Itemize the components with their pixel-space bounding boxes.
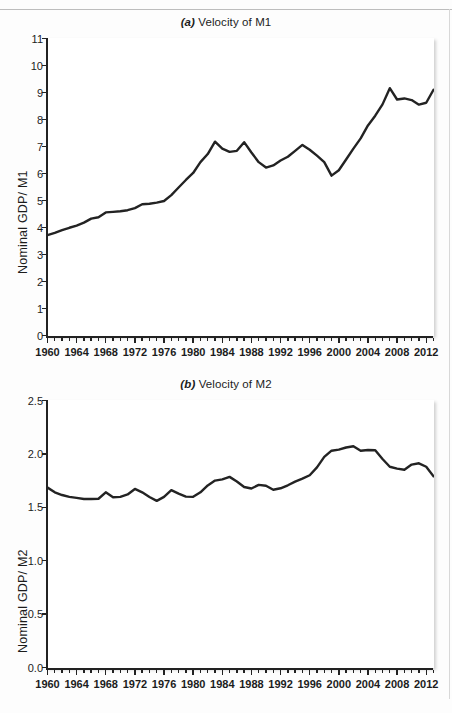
x-tick-mark: [404, 338, 405, 342]
x-tick-label: 1980: [181, 346, 205, 358]
x-tick-mark: [120, 338, 121, 342]
plot-area-m1: [47, 38, 434, 336]
y-tick-mark: [42, 119, 46, 121]
x-tick-mark: [105, 670, 106, 676]
x-tick-mark: [141, 670, 142, 674]
x-tick-mark: [47, 670, 48, 676]
x-tick-mark: [76, 670, 77, 676]
x-tick-mark: [192, 338, 193, 344]
y-tick-label: 2.5: [28, 395, 43, 407]
x-tick-mark: [243, 338, 244, 342]
x-tick-mark: [251, 338, 252, 344]
x-tick-mark: [134, 670, 135, 676]
x-tick-mark: [302, 670, 303, 674]
x-tick-mark: [163, 338, 164, 344]
x-tick-label: 1984: [210, 346, 234, 358]
x-tick-mark: [433, 338, 434, 342]
x-tick-label: 2004: [356, 678, 380, 690]
x-tick-label: 2000: [327, 678, 351, 690]
x-tick-mark: [345, 338, 346, 342]
chart-panel-velocity-m1: (a) Velocity of M1 Nominal GDP/ M1 01234…: [0, 10, 452, 358]
data-series-line: [48, 88, 434, 235]
x-tick-mark: [178, 338, 179, 342]
x-tick-mark: [120, 670, 121, 674]
x-tick-mark: [316, 670, 317, 674]
x-tick-mark: [207, 670, 208, 674]
x-tick-label: 1972: [123, 678, 147, 690]
x-tick-mark: [214, 338, 215, 342]
y-tick-mark: [42, 507, 46, 509]
x-tick-mark: [192, 670, 193, 676]
x-tick-label: 2012: [414, 678, 438, 690]
x-tick-label: 1984: [210, 678, 234, 690]
x-tick-label: 1980: [181, 678, 205, 690]
panel-tag-b: (b): [180, 378, 195, 390]
x-tick-mark: [426, 338, 427, 344]
y-tick-mark: [42, 335, 46, 337]
y-tick-mark: [42, 560, 46, 562]
x-tick-mark: [273, 670, 274, 674]
y-tick-mark: [42, 65, 46, 67]
x-tick-mark: [287, 670, 288, 674]
x-tick-mark: [134, 338, 135, 344]
x-tick-label: 2008: [385, 678, 409, 690]
y-axis-spine: [46, 38, 48, 336]
x-tick-mark: [207, 338, 208, 342]
x-tick-mark: [367, 338, 368, 344]
x-tick-label: 1972: [123, 346, 147, 358]
chart-svg-nominal-gdp-m2: [47, 400, 434, 668]
x-tick-mark: [404, 670, 405, 674]
x-tick-mark: [90, 338, 91, 342]
x-tick-mark: [200, 338, 201, 342]
x-tick-mark: [112, 670, 113, 674]
x-tick-mark: [338, 338, 339, 344]
x-tick-mark: [61, 670, 62, 674]
x-tick-mark: [324, 670, 325, 674]
x-tick-mark: [222, 338, 223, 344]
y-tick-label: 2.0: [28, 448, 43, 460]
y-tick-mark: [42, 400, 46, 402]
x-tick-mark: [418, 670, 419, 674]
x-tick-mark: [200, 670, 201, 674]
x-tick-mark: [105, 338, 106, 344]
chart-title-m2: (b) Velocity of M2: [0, 378, 452, 390]
x-tick-mark: [273, 338, 274, 342]
x-tick-mark: [90, 670, 91, 674]
y-tick-mark: [42, 281, 46, 283]
x-tick-mark: [171, 670, 172, 674]
x-tick-mark: [353, 338, 354, 342]
plot-area-m2: [47, 400, 434, 668]
x-tick-mark: [426, 670, 427, 676]
x-tick-mark: [265, 670, 266, 674]
x-tick-label: 1968: [94, 346, 118, 358]
x-tick-mark: [54, 338, 55, 342]
x-tick-mark: [375, 338, 376, 342]
x-tick-mark: [382, 670, 383, 674]
x-tick-mark: [236, 670, 237, 674]
y-tick-mark: [42, 38, 46, 40]
x-tick-mark: [149, 670, 150, 674]
x-tick-label: 1996: [297, 346, 321, 358]
x-tick-mark: [375, 670, 376, 674]
x-tick-mark: [418, 338, 419, 342]
x-tick-mark: [127, 338, 128, 342]
x-tick-mark: [156, 338, 157, 342]
x-tick-mark: [229, 338, 230, 342]
x-tick-mark: [149, 338, 150, 342]
x-tick-label: 1996: [297, 678, 321, 690]
x-tick-mark: [309, 338, 310, 344]
x-tick-mark: [185, 670, 186, 674]
y-tick-mark: [42, 173, 46, 175]
x-tick-mark: [294, 670, 295, 674]
x-tick-mark: [98, 338, 99, 342]
x-tick-mark: [83, 338, 84, 342]
x-tick-mark: [338, 670, 339, 676]
x-tick-mark: [47, 338, 48, 344]
x-tick-mark: [324, 338, 325, 342]
x-tick-label: 1976: [152, 678, 176, 690]
figure-page: (a) Velocity of M1 Nominal GDP/ M1 01234…: [0, 0, 452, 713]
x-tick-label: 1968: [94, 678, 118, 690]
panel-tag-a: (a): [181, 16, 195, 28]
x-tick-mark: [382, 338, 383, 342]
x-tick-mark: [163, 670, 164, 676]
